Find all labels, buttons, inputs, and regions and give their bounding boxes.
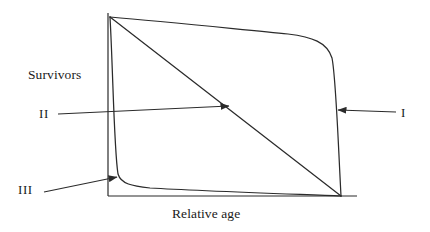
survivorship-curve-figure: Survivors Relative age I II III — [0, 0, 430, 232]
annotation-arrow-type-I — [338, 110, 396, 112]
curve-label-type-III: III — [18, 183, 33, 196]
y-axis-label: Survivors — [28, 68, 81, 82]
annotation-arrow-type-II — [58, 106, 229, 114]
annotation-arrow-type-III — [44, 177, 117, 192]
annotation-arrows — [44, 106, 396, 192]
curve-label-type-II: II — [39, 107, 49, 120]
figure-canvas — [0, 0, 430, 232]
curve-label-type-I: I — [401, 106, 406, 119]
axis-lines — [108, 13, 357, 196]
x-axis-label: Relative age — [172, 207, 240, 221]
